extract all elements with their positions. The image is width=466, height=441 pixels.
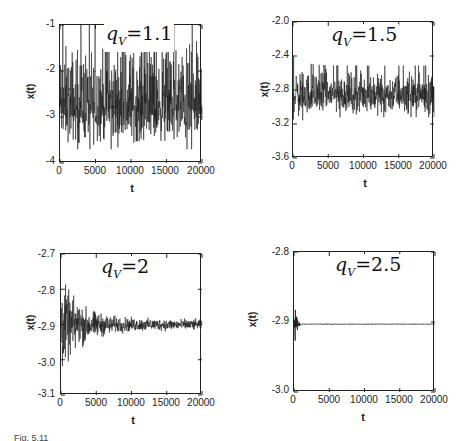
x-tick: 0 xyxy=(39,166,79,176)
x-tick: 5000 xyxy=(309,395,349,405)
x-tick: 10000 xyxy=(343,161,383,171)
q-v-annotation: qV=2 xyxy=(99,256,151,285)
x-tick: 5000 xyxy=(75,166,115,176)
y-tick: -2 xyxy=(21,64,55,74)
y-axis-label: x(t) xyxy=(25,72,36,112)
y-tick: -2.8 xyxy=(255,247,289,257)
y-tick: -2.8 xyxy=(255,84,289,94)
y-tick: -2.0 xyxy=(255,16,289,26)
y-tick: -2.9 xyxy=(21,322,55,332)
y-tick: -2.8 xyxy=(21,286,55,296)
y-tick: -1 xyxy=(21,19,55,29)
x-tick: 10000 xyxy=(111,398,151,408)
y-tick: -3.0 xyxy=(255,385,289,395)
x-tick: 20000 xyxy=(413,161,453,171)
x-axis-label: t xyxy=(122,182,142,194)
y-tick: -3.2 xyxy=(255,118,289,128)
x-tick: 10000 xyxy=(110,166,150,176)
x-tick: 5000 xyxy=(76,398,116,408)
x-tick: 15000 xyxy=(379,395,419,405)
x-tick: 20000 xyxy=(181,166,221,176)
y-tick: -2.9 xyxy=(255,316,289,326)
x-tick: 0 xyxy=(272,161,312,171)
x-tick: 0 xyxy=(273,395,313,405)
y-tick: -2.7 xyxy=(21,249,55,259)
x-tick: 15000 xyxy=(145,166,185,176)
x-tick: 20000 xyxy=(181,398,221,408)
x-axis-label: t xyxy=(123,414,143,426)
x-tick: 20000 xyxy=(414,395,454,405)
figure-caption: Fig. 5.11 xyxy=(14,434,454,441)
y-tick: -3.0 xyxy=(21,358,55,368)
y-tick: -3 xyxy=(21,110,55,120)
x-axis-label: t xyxy=(353,411,373,423)
y-tick: -4 xyxy=(21,156,55,166)
x-tick: 10000 xyxy=(344,395,384,405)
y-tick: -2.4 xyxy=(255,50,289,60)
x-tick: 0 xyxy=(40,398,80,408)
q-v-annotation: qV=1.1 xyxy=(104,23,174,52)
x-tick: 5000 xyxy=(308,161,348,171)
q-v-annotation: qV=2.5 xyxy=(333,254,403,283)
x-tick: 15000 xyxy=(378,161,418,171)
x-tick: 15000 xyxy=(146,398,186,408)
x-axis-label: t xyxy=(355,177,375,189)
q-v-annotation: qV=1.5 xyxy=(329,24,399,53)
